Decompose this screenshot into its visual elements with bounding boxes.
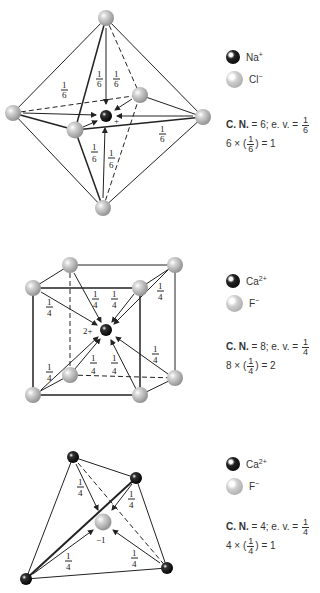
svg-text:4: 4 bbox=[66, 562, 71, 572]
svg-text:1: 1 bbox=[47, 297, 52, 307]
svg-text:1: 1 bbox=[91, 353, 96, 363]
anion-left bbox=[5, 105, 21, 121]
svg-text:1: 1 bbox=[153, 344, 158, 354]
anion-back-right bbox=[132, 87, 148, 103]
svg-text:1: 1 bbox=[160, 124, 165, 134]
legend-item-cation: Ca2+ bbox=[226, 270, 267, 292]
dark-ion-icon bbox=[226, 457, 240, 471]
svg-text:6: 6 bbox=[160, 134, 165, 144]
svg-text:4: 4 bbox=[93, 300, 98, 310]
octahedron-fractions: 16 16 16 16 16 16 + bbox=[61, 69, 166, 170]
light-ion-icon bbox=[226, 295, 243, 312]
svg-text:1: 1 bbox=[78, 477, 83, 487]
cation-center bbox=[100, 324, 112, 336]
svg-text:4: 4 bbox=[129, 500, 134, 510]
anion-right bbox=[195, 109, 211, 125]
svg-text:4: 4 bbox=[158, 292, 163, 302]
dark-ion-icon bbox=[226, 50, 240, 64]
center-charge-label: −1 bbox=[96, 535, 106, 545]
center-charge-label: + bbox=[114, 116, 119, 126]
svg-text:1: 1 bbox=[114, 69, 119, 79]
cation-center bbox=[100, 110, 112, 122]
svg-text:1: 1 bbox=[97, 69, 102, 79]
legend-item-anion: Cl− bbox=[226, 68, 263, 90]
light-ion-icon bbox=[226, 478, 243, 495]
legend-panel-1: Na+ Cl− bbox=[226, 46, 263, 90]
svg-text:6: 6 bbox=[109, 160, 114, 170]
svg-text:1: 1 bbox=[66, 551, 71, 561]
svg-text:1: 1 bbox=[93, 289, 98, 299]
svg-text:4: 4 bbox=[47, 308, 52, 318]
svg-text:4: 4 bbox=[153, 355, 158, 365]
svg-text:4: 4 bbox=[91, 366, 96, 376]
light-ion-icon bbox=[226, 71, 243, 88]
svg-text:1: 1 bbox=[129, 489, 134, 499]
crystal-coordination-figure: 16 16 16 16 16 16 + 14 14 bbox=[0, 0, 320, 593]
anion-center bbox=[95, 514, 112, 531]
center-charge-label: 2+ bbox=[83, 326, 93, 336]
legend-panel-3: Ca2+ F− bbox=[226, 453, 267, 497]
legend-item-anion: F− bbox=[226, 292, 267, 314]
anion-front-left bbox=[67, 122, 84, 139]
svg-text:1: 1 bbox=[132, 548, 137, 558]
svg-text:4: 4 bbox=[112, 366, 117, 376]
svg-text:4: 4 bbox=[78, 488, 83, 498]
info-panel-1: C. N. = 6; e. v. = 16 6 × (16) = 1 bbox=[226, 116, 310, 154]
svg-text:1: 1 bbox=[112, 289, 117, 299]
svg-text:1: 1 bbox=[109, 148, 114, 158]
svg-text:1: 1 bbox=[112, 353, 117, 363]
svg-text:1: 1 bbox=[158, 281, 163, 291]
anion-top bbox=[98, 10, 114, 26]
svg-text:6: 6 bbox=[92, 154, 97, 164]
legend-panel-2: Ca2+ F− bbox=[226, 270, 267, 314]
svg-text:4: 4 bbox=[132, 559, 137, 569]
svg-text:4: 4 bbox=[47, 373, 52, 383]
svg-text:1: 1 bbox=[62, 80, 67, 90]
anion-bottom bbox=[95, 200, 111, 216]
legend-item-cation: Ca2+ bbox=[226, 453, 267, 475]
svg-text:4: 4 bbox=[112, 300, 117, 310]
info-panel-3: C. N. = 4; e. v. = 14 4 × (14) = 1 bbox=[226, 518, 310, 556]
svg-text:6: 6 bbox=[97, 79, 102, 89]
svg-text:6: 6 bbox=[62, 90, 67, 100]
legend-item-anion: F− bbox=[226, 475, 267, 497]
svg-text:6: 6 bbox=[114, 79, 119, 89]
dark-ion-icon bbox=[226, 274, 240, 288]
legend-item-cation: Na+ bbox=[226, 46, 263, 68]
info-panel-2: C. N. = 8; e. v. = 14 8 × (14) = 2 bbox=[226, 338, 310, 376]
svg-text:1: 1 bbox=[47, 362, 52, 372]
svg-text:1: 1 bbox=[92, 142, 97, 152]
